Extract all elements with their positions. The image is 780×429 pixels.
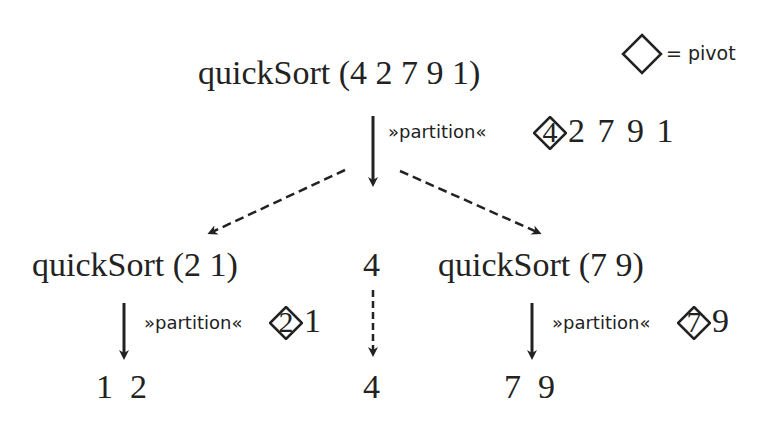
legend-text: = pivot [666,42,736,64]
root-rest: 2 7 9 1 [568,112,674,149]
right-pivot: 7 [676,302,712,340]
left-operation: »partition« [144,312,242,333]
middle-result: 4 [363,368,380,406]
right-partition-result: 7 9 [676,302,729,340]
diamond-icon [620,32,664,76]
left-result: 1 2 [96,368,147,406]
root-call: quickSort (4 2 7 9 1) [198,54,480,92]
middle-value: 4 [363,246,380,284]
left-pivot: 2 [268,302,304,340]
left-partition-result: 2 1 [268,302,321,340]
right-result: 7 9 [504,368,555,406]
root-partition-result: 4 2 7 9 1 [532,112,674,150]
left-call: quickSort (2 1) [32,246,238,284]
left-rest: 1 [304,302,321,339]
right-call: quickSort (7 9) [438,246,644,284]
dashed-arrow-right [400,171,537,232]
root-pivot: 4 [532,112,568,150]
root-operation: »partition« [388,121,486,142]
right-operation: »partition« [552,312,650,333]
dashed-arrow-left [212,170,345,232]
right-rest: 9 [712,302,729,339]
